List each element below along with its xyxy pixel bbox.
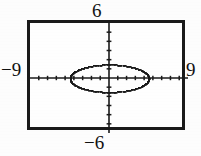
curve-pixel bbox=[98, 91, 100, 93]
curve-point bbox=[149, 78, 151, 80]
curve-point bbox=[87, 89, 89, 91]
curve-point bbox=[147, 82, 149, 84]
curve-point bbox=[80, 87, 82, 89]
curve-point bbox=[146, 73, 148, 75]
curve-point bbox=[143, 85, 145, 87]
plot-area bbox=[30, 23, 188, 133]
curve-point bbox=[80, 69, 82, 71]
curve-point bbox=[83, 88, 85, 90]
curve-point bbox=[123, 91, 125, 93]
curve-pixel bbox=[121, 91, 123, 93]
curve-point bbox=[72, 83, 74, 85]
curve-point bbox=[109, 64, 111, 66]
curve-point bbox=[91, 90, 93, 92]
curve-point bbox=[141, 86, 143, 88]
calculator-graph-screenshot: 6 −6 −9 9 bbox=[0, 0, 201, 156]
curve-point bbox=[143, 71, 145, 73]
curve-point bbox=[87, 67, 89, 69]
curve-point bbox=[127, 90, 129, 92]
curve-point bbox=[148, 80, 150, 82]
curve-point bbox=[100, 65, 102, 67]
curve-point bbox=[135, 68, 137, 70]
curve-point bbox=[114, 92, 116, 94]
curve-point bbox=[131, 89, 133, 91]
curve-point bbox=[71, 74, 73, 76]
curve-point bbox=[131, 67, 133, 69]
axes-group bbox=[30, 23, 188, 133]
curve-point bbox=[83, 68, 85, 70]
curve-point bbox=[141, 70, 143, 72]
curve-pixel bbox=[106, 64, 108, 66]
curve-point bbox=[100, 91, 102, 93]
curve-point bbox=[123, 65, 125, 67]
curve-point bbox=[77, 70, 79, 72]
curve-point bbox=[70, 78, 72, 80]
y-min-label: −6 bbox=[84, 133, 104, 152]
curve-point bbox=[95, 91, 97, 93]
curve-point bbox=[77, 86, 79, 88]
curve-point bbox=[118, 65, 120, 67]
curve-point bbox=[114, 64, 116, 66]
curve-point bbox=[75, 85, 77, 87]
curve-point bbox=[118, 91, 120, 93]
curve-point bbox=[135, 88, 137, 90]
curve-point bbox=[70, 80, 72, 82]
x-min-label: −9 bbox=[1, 60, 21, 79]
curve-point bbox=[127, 66, 129, 68]
curve-point bbox=[148, 76, 150, 78]
curve-point bbox=[75, 71, 77, 73]
curve-point bbox=[95, 65, 97, 67]
y-max-label: 6 bbox=[92, 1, 102, 20]
curve-point bbox=[138, 69, 140, 71]
viewing-window-frame bbox=[27, 20, 185, 130]
curve-point bbox=[70, 76, 72, 78]
curve-point bbox=[138, 87, 140, 89]
curve-point bbox=[104, 64, 106, 66]
curve-point bbox=[91, 66, 93, 68]
curve-point bbox=[109, 92, 111, 94]
curve-point bbox=[104, 92, 106, 94]
